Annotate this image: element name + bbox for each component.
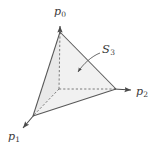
axis-label-p0: p0 (54, 6, 66, 17)
simplex-figure: p0 p1 p2 S3 (0, 0, 160, 153)
axis-label-p2: p2 (136, 86, 148, 97)
axis-label-p0-sub: 0 (61, 10, 66, 19)
axis-p2-visible (114, 89, 131, 90)
region-label-s3-base: S (102, 42, 110, 56)
axis-p1-visible (23, 115, 34, 128)
region-label-s3-sub: 3 (110, 48, 115, 57)
region-label-s3: S3 (102, 44, 115, 56)
axis-label-p0-base: p (54, 5, 61, 18)
axis-label-p1-sub: 1 (15, 135, 20, 144)
axis-label-p1-base: p (8, 130, 15, 143)
axis-label-p2-base: p (136, 85, 143, 98)
simplex-drawing (0, 0, 160, 153)
axis-label-p2-sub: 2 (143, 90, 148, 99)
axis-label-p1: p1 (8, 131, 20, 142)
